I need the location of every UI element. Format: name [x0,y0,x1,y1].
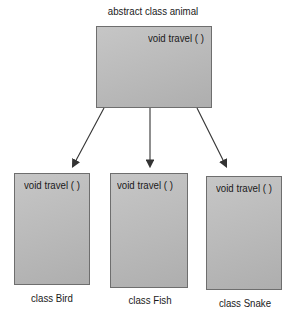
child-class-box-bird: void travel ( ) [14,173,90,285]
child-class-box-snake: void travel ( ) [206,176,282,290]
fish-method: void travel ( ) [117,179,173,191]
arrow-to-bird [73,108,104,166]
bird-method: void travel ( ) [24,179,80,191]
child-class-label-fish: class Fish [122,294,178,306]
arrow-to-snake [197,108,226,166]
child-class-box-fish: void travel ( ) [110,173,188,288]
child-class-label-snake: class Snake [214,297,276,309]
child-class-label-bird: class Bird [24,292,80,304]
snake-method: void travel ( ) [216,182,272,194]
